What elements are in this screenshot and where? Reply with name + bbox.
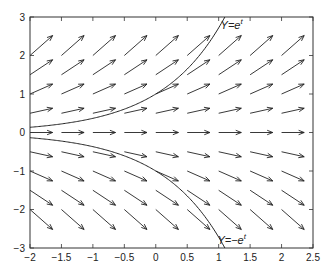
field-arrow xyxy=(93,36,116,56)
solution-curve xyxy=(30,17,225,127)
x-tick-label: 2.5 xyxy=(306,252,320,263)
field-arrow xyxy=(30,107,53,113)
field-arrow xyxy=(156,152,179,158)
field-arrow xyxy=(219,107,242,113)
field-arrow xyxy=(93,107,116,113)
y-tick-label: 0 xyxy=(19,127,25,138)
field-arrow xyxy=(250,190,273,205)
y-tick-label: −1 xyxy=(14,166,26,177)
field-arrow xyxy=(93,152,116,158)
field-arrow xyxy=(250,107,273,113)
x-tick-label: 1.5 xyxy=(243,252,257,263)
field-arrow xyxy=(219,60,242,75)
field-arrow xyxy=(156,36,179,56)
field-arrow xyxy=(250,36,273,56)
field-arrow xyxy=(219,84,242,94)
field-arrow xyxy=(30,210,53,230)
field-arrow xyxy=(187,130,210,134)
x-tick-label: −1.5 xyxy=(52,252,72,263)
field-arrow xyxy=(156,190,179,205)
field-arrow xyxy=(124,190,147,205)
field-arrow xyxy=(93,210,116,230)
field-arrow xyxy=(219,171,242,181)
field-arrow xyxy=(250,130,273,134)
field-arrow xyxy=(93,60,116,75)
field-arrow xyxy=(250,60,273,75)
field-arrow xyxy=(219,36,242,56)
field-arrow xyxy=(187,171,210,181)
field-arrow xyxy=(61,84,84,94)
field-arrow xyxy=(124,130,147,134)
field-arrow xyxy=(30,190,53,205)
field-arrow xyxy=(282,60,305,75)
field-arrow xyxy=(282,130,305,134)
field-arrow xyxy=(93,130,116,134)
y-tick-label: 2 xyxy=(19,50,25,61)
field-arrow xyxy=(124,171,147,181)
field-arrow xyxy=(61,60,84,75)
field-arrow xyxy=(187,107,210,113)
x-tick-label: 0.5 xyxy=(180,252,194,263)
field-arrow xyxy=(124,36,147,56)
field-arrow xyxy=(61,130,84,134)
field-arrow xyxy=(282,190,305,205)
x-tick-label: 0 xyxy=(153,252,159,263)
field-arrow xyxy=(30,152,53,158)
field-arrow xyxy=(30,60,53,75)
field-arrow xyxy=(61,210,84,230)
x-tick-label: −2 xyxy=(24,252,36,263)
y-tick-label: 3 xyxy=(19,12,25,23)
field-arrow xyxy=(61,152,84,158)
x-tick-label: 2 xyxy=(279,252,285,263)
field-arrow xyxy=(61,107,84,113)
field-arrow xyxy=(156,130,179,134)
field-arrow xyxy=(187,190,210,205)
x-tick-label: 1 xyxy=(216,252,222,263)
field-arrow xyxy=(93,84,116,94)
x-tick-label: −0.5 xyxy=(114,252,134,263)
field-arrow xyxy=(156,107,179,113)
field-arrow xyxy=(219,210,242,230)
field-arrow xyxy=(250,152,273,158)
field-arrow xyxy=(156,84,179,94)
field-arrow xyxy=(30,84,53,94)
field-arrow xyxy=(282,84,305,94)
solution-curve xyxy=(30,138,225,248)
y-tick-label: −2 xyxy=(14,204,26,215)
field-arrow xyxy=(30,171,53,181)
field-arrow xyxy=(156,171,179,181)
field-arrow xyxy=(61,171,84,181)
field-arrow xyxy=(61,36,84,56)
field-arrow xyxy=(30,36,53,56)
field-arrow xyxy=(156,210,179,230)
field-arrow xyxy=(124,210,147,230)
x-tick-label: −1 xyxy=(87,252,99,263)
field-arrow xyxy=(282,210,305,230)
direction-field-chart: −2−1.5−1−0.500.511.522.5 −3−2−10123 Y=et… xyxy=(0,0,335,275)
curve-label: Y=et xyxy=(221,17,244,31)
y-tick-label: −3 xyxy=(14,243,26,254)
field-arrow xyxy=(187,152,210,158)
field-arrow xyxy=(93,190,116,205)
field-arrow xyxy=(219,130,242,134)
field-arrow xyxy=(250,84,273,94)
curve-labels: Y=etY=−et xyxy=(217,17,246,245)
field-arrow xyxy=(250,171,273,181)
field-arrow xyxy=(282,36,305,56)
field-arrow xyxy=(282,171,305,181)
curve-label: Y=−et xyxy=(217,232,246,246)
field-arrow xyxy=(156,60,179,75)
x-axis-ticks: −2−1.5−1−0.500.511.522.5 xyxy=(24,17,320,263)
field-arrow xyxy=(124,60,147,75)
field-arrow xyxy=(187,84,210,94)
field-arrow xyxy=(282,152,305,158)
field-arrow xyxy=(93,171,116,181)
slope-field-arrows xyxy=(30,36,304,230)
field-arrow xyxy=(124,84,147,94)
field-arrow xyxy=(61,190,84,205)
plot-svg: −2−1.5−1−0.500.511.522.5 −3−2−10123 Y=et… xyxy=(0,0,335,275)
field-arrow xyxy=(187,60,210,75)
field-arrow xyxy=(250,210,273,230)
y-tick-label: 1 xyxy=(19,89,25,100)
field-arrow xyxy=(219,190,242,205)
